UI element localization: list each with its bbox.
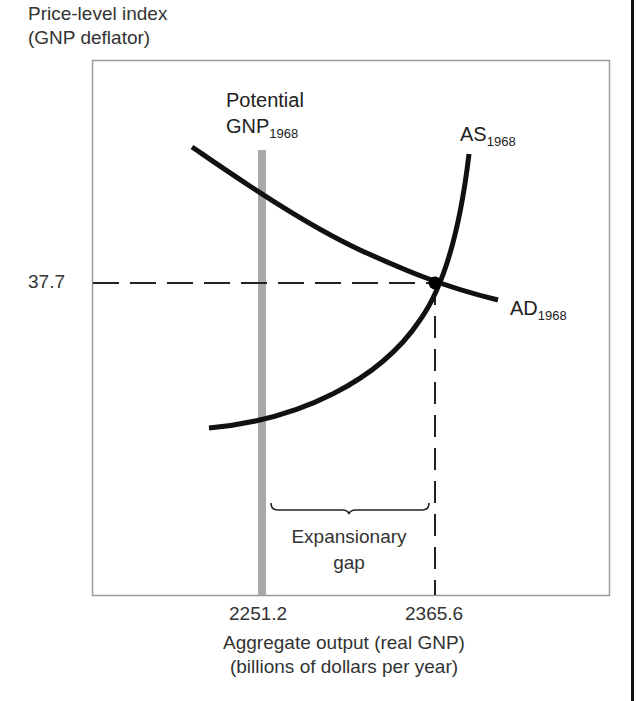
expansionary-gap-label: Expansionary gap [270,524,428,576]
as-label-subscript: 1968 [487,134,516,149]
x-axis-label-line2: (billions of dollars per year) [160,655,528,679]
y-axis-label-line2: (GNP deflator) [28,26,167,50]
potential-gnp-label-line2: GNP1968 [226,113,304,147]
y-tick-label: 37.7 [28,271,65,293]
x-tick-label-potential: 2251.2 [229,603,287,625]
potential-gnp-main: GNP [226,115,269,137]
x-axis-label: Aggregate output (real GNP) (billions of… [160,631,528,679]
ad-label-main: AD [510,297,538,319]
gap-label-line1: Expansionary [270,524,428,550]
potential-gnp-line [258,150,266,595]
ad-curve [192,147,498,300]
gap-label-line2: gap [270,550,428,576]
x-tick-label-equilibrium: 2365.6 [405,603,463,625]
expansionary-gap-bracket [271,503,429,514]
plot-frame [93,61,610,596]
ad-curve-label: AD1968 [510,297,567,323]
y-axis-label: Price-level index (GNP deflator) [28,2,167,50]
equilibrium-point [429,277,442,290]
as-curve [209,154,469,428]
x-axis-label-line1: Aggregate output (real GNP) [160,631,528,655]
ad-label-subscript: 1968 [538,308,567,323]
potential-gnp-label-line1: Potential [226,87,304,113]
y-axis-label-line1: Price-level index [28,2,167,26]
potential-gnp-subscript: 1968 [269,126,298,141]
as-label-main: AS [460,123,487,145]
chart-canvas [0,0,637,701]
as-curve-label: AS1968 [460,123,516,149]
potential-gnp-label: Potential GNP1968 [226,87,304,147]
